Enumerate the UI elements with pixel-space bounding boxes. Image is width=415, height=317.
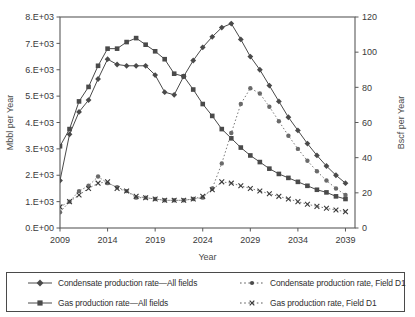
axis-text: 60: [362, 118, 372, 128]
axis-text: 2.E+03: [25, 170, 54, 180]
data-point: [334, 208, 339, 213]
data-point: [220, 161, 224, 165]
data-point: [219, 127, 224, 132]
axis-text: 2019: [145, 235, 165, 245]
y-axis-title: Mbbl per Year: [5, 95, 15, 151]
axis-text: 0: [362, 223, 367, 233]
chart-legend: Condensate production rate—All fields Co…: [6, 272, 405, 312]
data-point: [114, 62, 120, 68]
axis-text: 5.E+03: [25, 91, 54, 101]
data-point: [105, 56, 111, 62]
legend-sample-cross-dotted-icon: [239, 297, 265, 309]
legend-label: Gas production rate—All fields: [58, 298, 168, 308]
legend-item-condensate-field-d1: Condensate production rate, Field D1: [221, 273, 406, 293]
legend-label: Condensate production rate—All fields: [58, 278, 197, 288]
data-point: [229, 131, 233, 135]
data-point: [276, 99, 282, 105]
data-point: [305, 202, 310, 207]
axis-text: 3.E+03: [25, 144, 54, 154]
axis-text: 120: [362, 12, 377, 22]
data-point: [219, 179, 224, 184]
data-point: [239, 102, 243, 106]
axis-text: 2024: [193, 235, 213, 245]
axis-text: 2039: [335, 235, 355, 245]
data-point: [277, 172, 282, 177]
axis-text: 4.E+03: [25, 118, 54, 128]
axis-text: 6.E+03: [25, 65, 54, 75]
data-point: [286, 176, 291, 181]
data-point: [162, 89, 168, 95]
axis-text: 20: [362, 188, 372, 198]
data-point: [276, 194, 281, 199]
data-point: [334, 186, 338, 190]
axis-text: 80: [362, 83, 372, 93]
data-point: [238, 37, 244, 43]
data-point: [267, 191, 272, 196]
data-point: [67, 127, 72, 132]
data-point: [238, 183, 243, 188]
data-point: [191, 87, 196, 92]
data-point: [343, 193, 347, 197]
data-point: [77, 193, 82, 198]
data-point: [266, 83, 272, 89]
data-point: [258, 91, 262, 95]
data-point: [228, 21, 234, 27]
data-point: [248, 86, 252, 90]
data-point: [86, 85, 91, 90]
data-point: [277, 119, 281, 123]
data-point: [105, 46, 110, 51]
data-point: [115, 46, 120, 51]
data-point: [267, 104, 271, 108]
data-point: [305, 159, 309, 163]
data-point: [153, 49, 158, 54]
axis-text: 100: [362, 47, 377, 57]
data-point: [343, 197, 348, 202]
production-rate-line-chart: 0.E+001.E+032.E+033.E+034.E+035.E+036.E+…: [0, 0, 415, 262]
data-point: [305, 184, 310, 189]
legend-label: Condensate production rate, Field D1: [270, 278, 406, 288]
legend-label: Gas production rate, Field D1: [270, 298, 377, 308]
data-point: [296, 147, 300, 151]
data-point: [134, 36, 139, 41]
data-point: [77, 189, 81, 193]
data-point: [210, 114, 215, 119]
data-point: [172, 71, 177, 76]
x-axis-title: Year: [198, 252, 216, 262]
data-point: [181, 74, 186, 79]
data-point: [162, 57, 167, 62]
axis-text: 2029: [240, 235, 260, 245]
axis-text: 40: [362, 153, 372, 163]
data-point: [248, 153, 253, 158]
axis-text: 2014: [98, 235, 118, 245]
data-point: [96, 181, 101, 186]
data-point: [143, 42, 148, 47]
legend-sample-diamond-solid-icon: [27, 277, 53, 289]
legend-item-gas-all-fields: Gas production rate—All fields: [11, 293, 221, 313]
data-point: [258, 160, 263, 165]
data-point: [296, 180, 301, 185]
series-1: [58, 36, 348, 201]
axis-text: 8.E+03: [25, 12, 54, 22]
data-point: [96, 63, 101, 68]
y2-axis-title: Bscf per Year: [396, 96, 406, 150]
data-point: [124, 63, 130, 69]
legend-item-gas-field-d1: Gas production rate, Field D1: [221, 293, 406, 313]
data-point: [200, 102, 205, 107]
data-point: [324, 190, 329, 195]
legend-sample-square-solid-icon: [27, 297, 53, 309]
axis-text: 2034: [288, 235, 308, 245]
data-point: [95, 76, 101, 82]
data-point: [324, 178, 328, 182]
data-point: [124, 40, 129, 45]
data-point: [315, 187, 320, 192]
data-point: [171, 92, 177, 98]
data-point: [239, 145, 244, 150]
data-point: [77, 99, 82, 104]
figure: 0.E+001.E+032.E+033.E+034.E+035.E+036.E+…: [0, 0, 415, 317]
data-point: [133, 63, 139, 69]
data-point: [96, 174, 100, 178]
data-point: [267, 166, 272, 171]
series-line: [60, 38, 345, 199]
axis-text: 7.E+03: [25, 39, 54, 49]
data-point: [58, 210, 62, 214]
